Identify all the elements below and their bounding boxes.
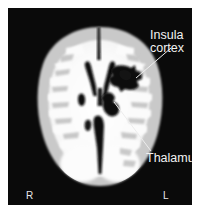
brain-mri-figure: Insula cortex Thalamus R L xyxy=(0,0,201,213)
mri-scan-frame: Insula cortex Thalamus R L xyxy=(8,8,192,205)
right-periventricular-focus xyxy=(78,93,85,105)
orientation-marker-left: L xyxy=(163,191,169,201)
insula-cortex-label: Insula cortex xyxy=(150,29,184,54)
insula-cortex-label-line2: cortex xyxy=(150,42,184,55)
insula-cortex-label-line1: Insula xyxy=(150,29,184,42)
anterior-interhemispheric-fissure xyxy=(97,27,100,60)
orientation-marker-right: R xyxy=(26,191,33,201)
thalamus-label: Thalamus xyxy=(146,152,192,165)
